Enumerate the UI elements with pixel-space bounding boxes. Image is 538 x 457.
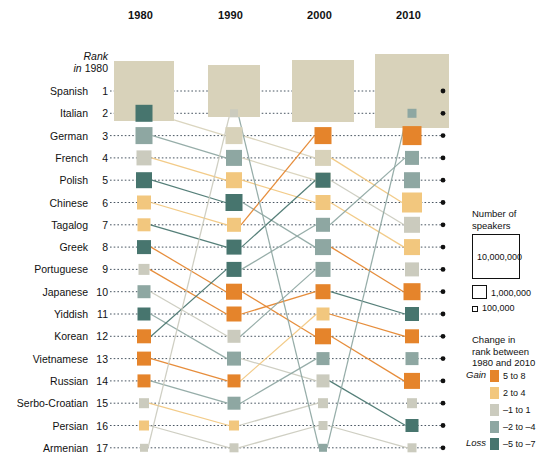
row-language-label: Japanese: [0, 286, 88, 298]
color-legend-swatch-darkteal: [490, 438, 499, 450]
row-rank-number: 12: [92, 330, 108, 342]
row-language-label: Russian: [0, 375, 88, 387]
row-rank-number: 15: [92, 397, 108, 409]
row-rank-number: 10: [92, 286, 108, 298]
color-legend-heading: Change in rank between 1980 and 2010: [472, 334, 535, 369]
row-language-label: French: [0, 152, 88, 164]
color-legend-swatch-teal: [490, 421, 499, 433]
row-language-label: Persian: [0, 420, 88, 432]
row-rank-number: 11: [92, 308, 108, 320]
row-language-label: Italian: [0, 107, 88, 119]
row-language-label: Yiddish: [0, 308, 88, 320]
size-legend-label-1m: 1,000,000: [491, 288, 531, 298]
row-language-label: Polish: [0, 174, 88, 186]
color-legend-label-darkteal: –5 to –7: [503, 439, 536, 449]
color-legend-heading-line1: Change in: [472, 334, 515, 345]
row-rank-number: 16: [92, 420, 108, 432]
color-legend-heading-line3: 1980 and 2010: [472, 357, 535, 368]
row-rank-number: 2: [92, 107, 108, 119]
size-legend-box-1m: [472, 285, 487, 299]
row-language-label: Armenian: [0, 442, 88, 454]
color-legend-label-lightorange: 2 to 4: [503, 388, 526, 398]
row-language-label: Korean: [0, 330, 88, 342]
size-legend-heading-line2: speakers: [472, 220, 511, 231]
color-legend-label-teal: –2 to –4: [503, 422, 536, 432]
color-legend-label-graybeige: –1 to 1: [503, 405, 531, 415]
row-language-label: Portuguese: [0, 263, 88, 275]
row-language-label: German: [0, 130, 88, 142]
bump-chart-figure: 1980 1990 2000 2010 Rank in 1980 Spanish…: [0, 0, 538, 457]
row-language-label: Serbo-Croatian: [0, 397, 88, 409]
row-rank-number: 9: [92, 263, 108, 275]
row-rank-number: 3: [92, 130, 108, 142]
row-rank-number: 17: [92, 442, 108, 454]
row-rank-number: 13: [92, 353, 108, 365]
row-rank-number: 1: [92, 85, 108, 97]
row-rank-number: 5: [92, 174, 108, 186]
row-language-label: Tagalog: [0, 219, 88, 231]
row-language-label: Vietnamese: [0, 353, 88, 365]
color-legend-loss-label: Loss: [466, 437, 486, 448]
size-legend-heading: Number of speakers: [472, 208, 516, 231]
color-legend-gain-label: Gain: [466, 369, 486, 380]
color-legend-swatch-lightorange: [490, 387, 499, 399]
size-legend-heading-line1: Number of: [472, 208, 516, 219]
row-rank-number: 4: [92, 152, 108, 164]
row-language-label: Greek: [0, 241, 88, 253]
color-legend-heading-line2: rank between: [472, 346, 529, 357]
size-legend-box-100k: [472, 306, 478, 312]
row-rank-number: 6: [92, 197, 108, 209]
size-legend-label-100k: 100,000: [482, 303, 515, 313]
color-legend-label-orange: 5 to 8: [503, 371, 526, 381]
size-legend-label-10m: 10,000,000: [477, 252, 522, 262]
row-language-label: Spanish: [0, 85, 88, 97]
row-rank-number: 8: [92, 241, 108, 253]
color-legend-swatch-orange: [490, 370, 499, 382]
row-language-label: Chinese: [0, 197, 88, 209]
color-legend-swatch-graybeige: [490, 404, 499, 416]
row-rank-number: 14: [92, 375, 108, 387]
row-rank-number: 7: [92, 219, 108, 231]
